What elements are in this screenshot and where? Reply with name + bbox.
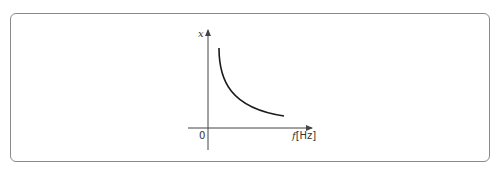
y-axis-label: x — [198, 28, 204, 39]
x-axis-unit: [Hz] — [296, 130, 317, 141]
x-axis-label: f[Hz] — [292, 130, 316, 141]
curve — [219, 48, 284, 116]
graph — [0, 0, 500, 169]
origin-label: 0 — [199, 130, 205, 141]
